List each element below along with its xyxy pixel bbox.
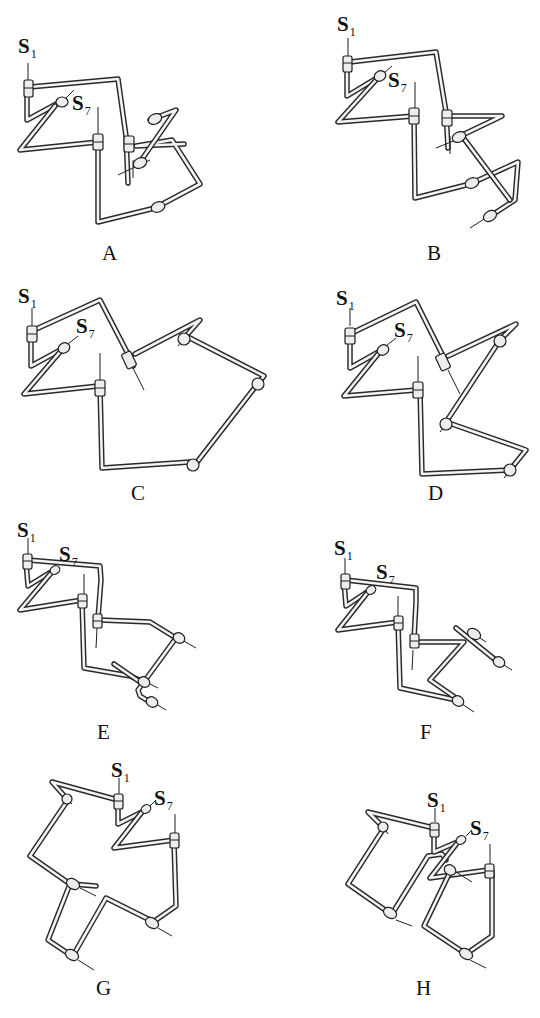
tubes <box>20 560 176 702</box>
linkage-drawing-a <box>0 0 270 270</box>
linkage-drawing-g <box>0 760 270 1018</box>
s1-label: S1 <box>337 14 356 38</box>
tubes <box>344 302 526 474</box>
panel-label: H <box>416 978 431 999</box>
linkage-drawing-c <box>0 270 270 510</box>
panel-b: S1 S7 B <box>270 0 540 270</box>
s7-label: S7 <box>394 320 413 344</box>
tubes <box>24 300 264 468</box>
s7-label: S7 <box>388 70 407 94</box>
s7-label: S7 <box>59 544 78 568</box>
joint-s7 <box>56 97 68 107</box>
s7-label: S7 <box>76 316 95 340</box>
panel-d: S1 S7 D <box>270 270 540 510</box>
joint-s1 <box>343 56 352 72</box>
s7-label: S7 <box>72 93 91 117</box>
linkage-drawing-e <box>0 510 270 750</box>
linkage-configurations-figure: S1 S7 A <box>0 0 540 1018</box>
panel-f: S1 S7 F <box>270 510 540 750</box>
panel-label: E <box>97 722 110 743</box>
s1-label: S1 <box>17 520 36 544</box>
linkage-drawing-h <box>270 760 540 1018</box>
s1-label: S1 <box>111 760 130 784</box>
panel-label: B <box>427 243 441 264</box>
s1-label: S1 <box>336 288 355 312</box>
linkage-drawing-b <box>270 0 540 270</box>
s7-label: S7 <box>376 562 395 586</box>
panel-e: S1 S7 E <box>0 510 270 750</box>
s1-label: S1 <box>18 286 37 310</box>
s7-label: S7 <box>154 788 173 812</box>
linkage-drawing-f <box>270 510 540 750</box>
tubes <box>20 79 200 222</box>
panel-label: C <box>131 483 145 504</box>
s1-label: S1 <box>334 538 353 562</box>
tubes <box>338 52 518 215</box>
panel-label: F <box>420 722 432 743</box>
panel-g: S1 S7 G <box>0 760 270 1018</box>
linkage-drawing-d <box>270 270 540 510</box>
panel-c: S1 S7 C <box>0 270 270 510</box>
panel-label: D <box>428 483 443 504</box>
panel-a: S1 S7 A <box>0 0 270 270</box>
panel-label: G <box>96 978 111 999</box>
panel-h: S1 S7 H <box>270 760 540 1018</box>
s1-label: S1 <box>18 36 37 60</box>
s1-label: S1 <box>427 790 446 814</box>
panel-label: A <box>102 243 117 264</box>
s7-label: S7 <box>470 818 489 842</box>
